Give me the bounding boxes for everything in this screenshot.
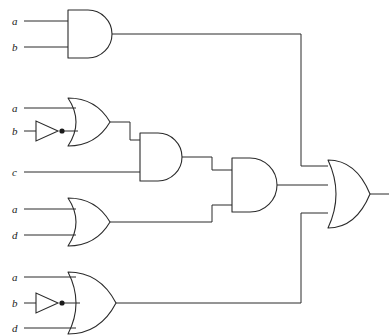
gate-or-a-notb-d [24,213,328,334]
gate-or-a-d [24,198,232,246]
logic-circuit-diagram: a b a b c [0,0,389,336]
label-g3-in1: c [12,166,17,178]
label-g5-in1: a [12,271,18,283]
inverter-b-upper [24,121,65,141]
label-g2-in1: a [12,102,18,114]
inverter-b-lower [24,293,65,313]
label-g5-in3: d [12,322,18,334]
label-g4-in2: d [12,229,18,241]
and-gate-body [140,133,182,181]
gate-or-output [328,160,389,228]
label-g1-in2: b [12,41,18,53]
inverter-triangle-icon [36,121,58,141]
label-g5-in2: b [12,297,18,309]
or-gate-body [328,160,370,228]
junction-dot-icon [59,128,64,133]
gate-and-mid [24,133,232,181]
label-g1-in1: a [12,15,18,27]
label-g2-in2: b [12,125,18,137]
and-gate-body [68,10,112,58]
circuit-canvas: a b a b c [0,0,389,336]
junction-dot-icon [59,300,64,305]
or-gate-body [68,198,110,246]
and-gate-body [232,158,277,212]
label-g4-in1: a [12,203,18,215]
or-gate-body [68,98,110,146]
inverter-triangle-icon [36,293,58,313]
